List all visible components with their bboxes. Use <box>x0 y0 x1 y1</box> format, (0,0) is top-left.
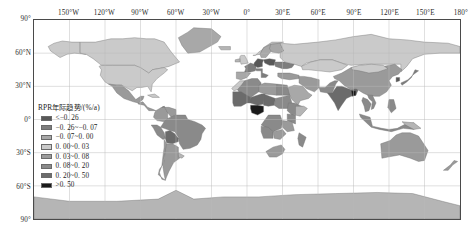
country-polygon <box>298 133 306 147</box>
longitude-tick-label: 60°W <box>167 9 184 17</box>
legend-entry-label: >0. 50 <box>56 181 75 189</box>
longitude-tick-label: 30°W <box>203 9 220 17</box>
legend-entry: <−0. 26 <box>41 114 130 124</box>
country-polygon <box>396 77 400 81</box>
latitude-tick-label: 30°S <box>16 149 31 157</box>
latitude-tick-label: 90° <box>20 216 31 224</box>
country-polygon <box>148 94 160 97</box>
country-polygon <box>254 59 263 68</box>
country-polygon <box>99 65 168 92</box>
longitude-tick-label: 120°E <box>380 9 399 17</box>
latitude-axis: 90°60°N30°N0°30°S60°S90° <box>4 0 31 242</box>
legend-entry: 0. 00~0. 03 <box>41 142 130 152</box>
country-polygon <box>296 106 308 116</box>
legend-color-swatch <box>41 125 52 130</box>
country-polygon <box>264 59 276 66</box>
legend-color-swatch <box>41 173 52 178</box>
country-polygon <box>163 144 180 180</box>
legend-title: RPR年际趋势/(%/a) <box>38 101 130 112</box>
legend-entry: −0. 26~−0. 07 <box>41 123 130 133</box>
country-polygon <box>138 102 156 111</box>
latitude-tick-label: 60°S <box>16 183 31 191</box>
legend-entry: 0. 03~0. 08 <box>41 152 130 162</box>
country-polygon <box>236 72 250 80</box>
country-polygon <box>278 73 299 80</box>
longitude-tick-label: 90°E <box>346 9 361 17</box>
country-polygon <box>259 83 277 95</box>
country-polygon <box>178 28 221 53</box>
longitude-tick-label: 60°E <box>311 9 326 17</box>
country-polygon <box>443 160 457 170</box>
legend-entry-label: 0. 03~0. 08 <box>56 153 90 161</box>
country-polygon <box>381 133 428 162</box>
legend-entry-label: 0. 00~0. 03 <box>56 143 90 151</box>
longitude-tick-label: 180° <box>454 9 468 17</box>
latitude-tick-label: 90° <box>20 15 31 23</box>
country-polygon <box>266 145 285 157</box>
country-polygon <box>251 105 264 115</box>
legend-entry-label: 0. 08~0. 20 <box>56 162 90 170</box>
country-polygon <box>219 47 231 50</box>
longitude-tick-label: 0° <box>244 9 251 17</box>
legend-entry: 0. 08~0. 20 <box>41 161 130 171</box>
legend-entry-label: 0. 20~0. 50 <box>56 172 90 180</box>
legend-color-swatch <box>41 135 52 140</box>
legend: RPR年际趋势/(%/a) <−0. 26−0. 26~−0. 07−0. 07… <box>38 101 130 190</box>
country-polygon <box>178 153 184 159</box>
latitude-tick-label: 60°N <box>15 49 31 57</box>
legend-color-swatch <box>41 154 52 159</box>
legend-entry-list: <−0. 26−0. 26~−0. 07−0. 07~0. 000. 00~0.… <box>38 114 130 191</box>
country-polygon <box>401 70 419 85</box>
legend-color-swatch <box>41 164 52 169</box>
country-polygon <box>277 84 290 95</box>
country-polygon <box>264 94 276 106</box>
country-polygon <box>255 69 268 78</box>
legend-entry: >0. 50 <box>41 181 130 191</box>
legend-entry-label: −0. 26~−0. 07 <box>56 124 98 132</box>
legend-entry: 0. 20~0. 50 <box>41 171 130 181</box>
legend-color-swatch <box>41 144 52 149</box>
longitude-tick-label: 150°W <box>58 9 79 17</box>
longitude-tick-label: 30°E <box>275 9 290 17</box>
legend-color-swatch <box>41 183 52 188</box>
longitude-tick-label: 90°W <box>131 9 148 17</box>
legend-color-swatch <box>41 116 52 121</box>
country-polygon <box>235 59 240 62</box>
latitude-tick-label: 0° <box>24 116 31 124</box>
legend-entry-label: <−0. 26 <box>56 114 79 122</box>
latitude-tick-label: 30°N <box>15 82 31 90</box>
legend-entry-label: −0. 07~0. 00 <box>56 133 94 141</box>
longitude-tick-label: 150°E <box>416 9 435 17</box>
legend-entry: −0. 07~0. 00 <box>41 133 130 143</box>
longitude-tick-label: 120°W <box>94 9 115 17</box>
